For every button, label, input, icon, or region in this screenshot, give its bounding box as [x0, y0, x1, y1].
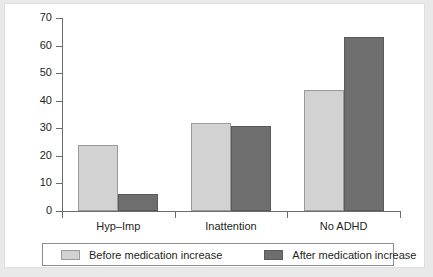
- y-axis-tick-label: 20: [8, 150, 52, 161]
- bar-inattention-before: [191, 123, 231, 211]
- bar-no-adhd-after: [344, 37, 384, 211]
- x-axis-category-label: No ADHD: [284, 220, 404, 233]
- legend-swatch-after: [264, 250, 283, 260]
- legend-swatch-before: [61, 250, 80, 260]
- y-axis-tick-label: 50: [8, 67, 52, 78]
- x-axis-tick: [175, 212, 176, 218]
- legend-label: Before medication increase: [89, 249, 222, 261]
- x-axis-tick: [62, 212, 63, 218]
- x-axis-tick: [400, 212, 401, 218]
- y-axis-tick-label: 30: [8, 122, 52, 133]
- figure-canvas: 010203040506070 Hyp–ImpInattentionNo ADH…: [4, 3, 425, 268]
- x-axis-line: [62, 211, 401, 212]
- bar-no-adhd-before: [304, 90, 344, 211]
- legend-item-before: Before medication increase: [61, 249, 222, 261]
- bar-hyp-imp-after: [118, 194, 158, 211]
- legend-item-after: After medication increase: [264, 249, 416, 261]
- chart-legend: Before medication increaseAfter medicati…: [42, 243, 394, 266]
- x-axis-category-label: Inattention: [171, 220, 291, 233]
- y-axis-tick-label: 40: [8, 95, 52, 106]
- plot-area: [62, 18, 400, 211]
- y-axis-tick-label: 0: [8, 205, 52, 216]
- y-axis-tick-label: 70: [8, 12, 52, 23]
- figure-frame: 010203040506070 Hyp–ImpInattentionNo ADH…: [0, 0, 433, 277]
- bar-hyp-imp-before: [78, 145, 118, 211]
- y-axis-tick-label: 60: [8, 40, 52, 51]
- bar-inattention-after: [231, 126, 271, 211]
- y-axis-tick-label: 10: [8, 177, 52, 188]
- x-axis-tick: [287, 212, 288, 218]
- legend-label: After medication increase: [292, 249, 416, 261]
- x-axis-category-label: Hyp–Imp: [58, 220, 178, 233]
